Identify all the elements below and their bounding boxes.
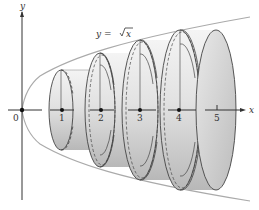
origin-point [20, 108, 24, 112]
y-axis-arrow-icon [20, 11, 24, 17]
point-3 [138, 108, 142, 112]
y-axis-label: y [19, 1, 26, 11]
solid-of-revolution-diagram: y x 0 1 2 3 4 5 y = x [0, 0, 259, 210]
tick-label-1: 1 [59, 113, 65, 123]
curve-label: y = x [95, 28, 133, 39]
point-2 [99, 108, 103, 112]
svg-text:y =: y = [95, 29, 112, 39]
x-axis-arrow-icon [240, 108, 246, 112]
x-axis-label: x [249, 105, 254, 115]
tick-label-3: 3 [137, 113, 143, 123]
tick-label-4: 4 [176, 113, 182, 123]
tick-label-5: 5 [214, 113, 220, 123]
svg-text:x: x [126, 29, 131, 39]
diagram-svg: y x 0 1 2 3 4 5 y = x [0, 0, 259, 210]
origin-label: 0 [13, 113, 19, 123]
point-1 [60, 108, 64, 112]
tick-label-2: 2 [98, 113, 104, 123]
point-4 [177, 108, 181, 112]
